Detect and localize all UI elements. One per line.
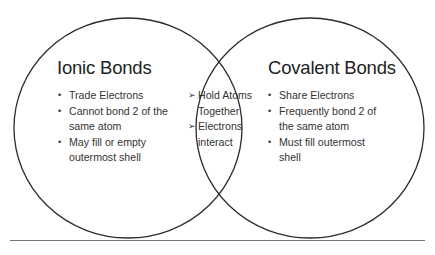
bottom-divider bbox=[10, 240, 425, 241]
ionic-bonds-list: Trade Electrons Cannot bond 2 of the sam… bbox=[58, 88, 176, 166]
ionic-bonds-item: Cannot bond 2 of the same atom bbox=[58, 104, 176, 135]
overlap-item-text: Electrons interact bbox=[198, 120, 242, 148]
overlap-list: ➢Hold Atoms Together ➢Electrons interact bbox=[188, 88, 254, 150]
covalent-bonds-title: Covalent Bonds bbox=[268, 57, 396, 79]
overlap-item: ➢Hold Atoms Together bbox=[188, 88, 254, 119]
covalent-bonds-list: Share Electrons Frequently bond 2 of the… bbox=[268, 88, 380, 166]
ionic-bonds-title: Ionic Bonds bbox=[57, 57, 151, 79]
ionic-bonds-item: Trade Electrons bbox=[58, 88, 176, 104]
ionic-bonds-item: May fill or empty outermost shell bbox=[58, 135, 176, 166]
covalent-bonds-item: Must fill outermost shell bbox=[268, 135, 380, 166]
arrow-bullet-icon: ➢ bbox=[188, 88, 196, 104]
overlap-item-text: Hold Atoms Together bbox=[198, 89, 252, 117]
arrow-bullet-icon: ➢ bbox=[188, 119, 196, 135]
covalent-bonds-item: Frequently bond 2 of the same atom bbox=[268, 104, 380, 135]
covalent-bonds-item: Share Electrons bbox=[268, 88, 380, 104]
overlap-item: ➢Electrons interact bbox=[188, 119, 254, 150]
